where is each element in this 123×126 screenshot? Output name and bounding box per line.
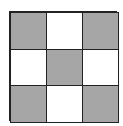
grid-cell-r2-c1-empty	[46, 85, 83, 123]
grid-cell-r2-c2-filled	[82, 85, 119, 123]
grid-cell-r0-c1-empty	[46, 12, 83, 50]
grid-cell-r1-c0-empty	[10, 49, 47, 86]
grid-cell-r0-c2-filled	[82, 12, 119, 50]
grid-cell-r1-c2-empty	[82, 49, 119, 86]
checker-grid	[9, 11, 117, 121]
grid-cell-r2-c0-filled	[10, 85, 47, 123]
grid-cell-r0-c0-filled	[10, 12, 47, 50]
grid-cell-r1-c1-filled	[46, 49, 83, 86]
